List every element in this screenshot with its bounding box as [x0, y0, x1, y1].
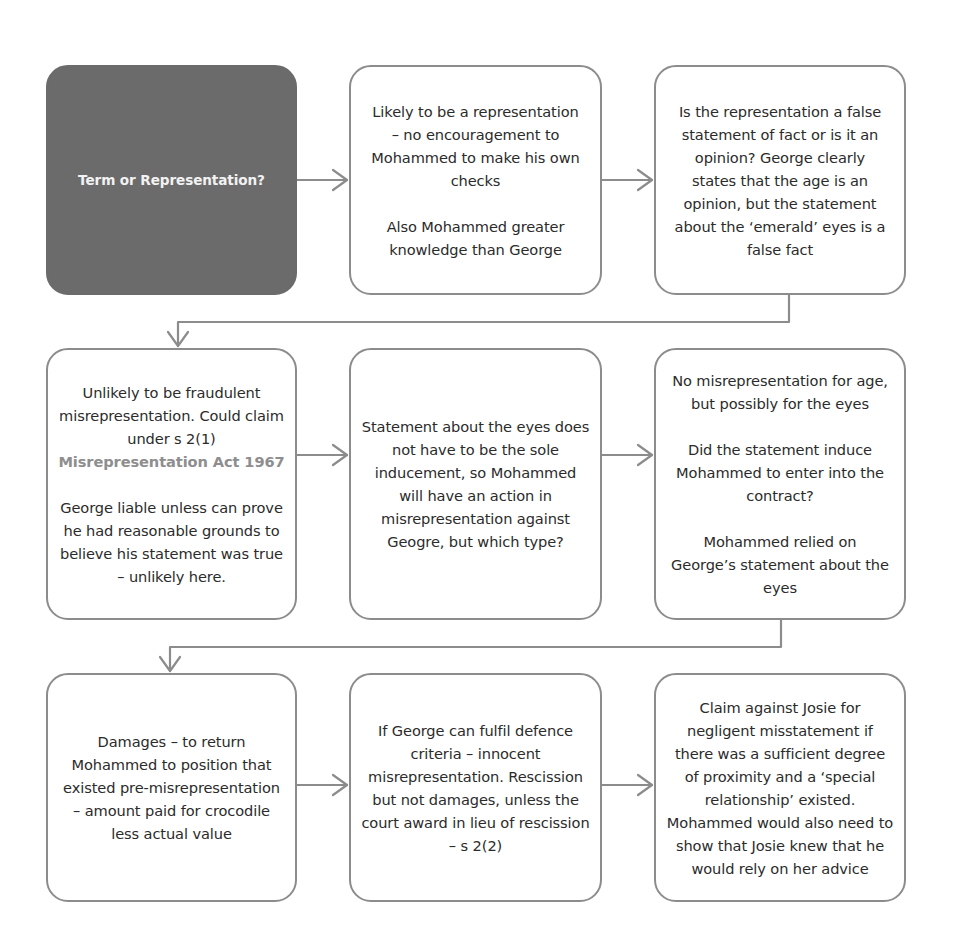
box-paragraph: Unlikely to be fraudulent misrepresentat…: [58, 381, 285, 473]
box-term-or-representation: Term or Representation?: [46, 65, 297, 295]
box-text: Statement about the eyes does not have t…: [361, 415, 590, 553]
arrow-right-icon: [602, 170, 652, 190]
box-text: No misrepresentation for age, but possib…: [670, 369, 890, 415]
arrow-right-icon: [297, 445, 347, 465]
box-text: Claim against Josie for negligent missta…: [666, 696, 894, 880]
arrow-right-icon: [602, 775, 652, 795]
box-text: Mohammed relied on George’s statement ab…: [670, 530, 890, 599]
arrow-right-icon: [297, 775, 347, 795]
arrow-right-icon: [602, 445, 652, 465]
box-claim-against-josie: Claim against Josie for negligent missta…: [654, 673, 906, 902]
elbow-arrow-down-icon: [168, 295, 789, 346]
box-no-misrep-for-age: No misrepresentation for age, but possib…: [654, 348, 906, 620]
box-text: Is the representation a false statement …: [674, 100, 886, 261]
box-text: Likely to be a representation – no encou…: [367, 100, 584, 192]
box-text: Unlikely to be fraudulent misrepresentat…: [58, 381, 285, 450]
box-text: George liable unless can prove he had re…: [58, 496, 285, 588]
statute-reference-link: Misrepresentation Act 1967: [58, 450, 285, 473]
box-innocent-misrep: If George can fulfil defence criteria – …: [349, 673, 602, 902]
elbow-arrow-down-icon: [160, 620, 781, 671]
box-text: Term or Representation?: [78, 169, 265, 192]
box-likely-representation: Likely to be a representation – no encou…: [349, 65, 602, 295]
box-text: Damages – to return Mohammed to position…: [58, 730, 285, 845]
box-damages: Damages – to return Mohammed to position…: [46, 673, 297, 902]
box-text: Did the statement induce Mohammed to ent…: [670, 438, 890, 507]
box-sole-inducement: Statement about the eyes does not have t…: [349, 348, 602, 620]
box-unlikely-fraudulent: Unlikely to be fraudulent misrepresentat…: [46, 348, 297, 620]
box-fact-or-opinion: Is the representation a false statement …: [654, 65, 906, 295]
arrow-right-icon: [297, 170, 347, 190]
box-text: If George can fulfil defence criteria – …: [361, 719, 590, 857]
box-text: Also Mohammed greater knowledge than Geo…: [367, 215, 584, 261]
